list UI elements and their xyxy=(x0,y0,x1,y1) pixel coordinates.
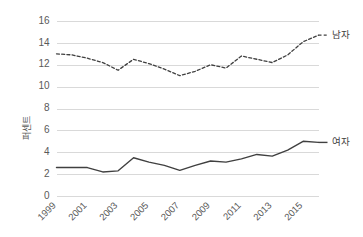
y-tick-label: 8 xyxy=(44,102,50,113)
y-axis-tick-labels: 0246810121416 xyxy=(38,15,50,201)
y-tick-label: 10 xyxy=(38,80,50,91)
y-tick-label: 16 xyxy=(38,15,50,26)
x-tick-label: 2007 xyxy=(158,200,181,223)
y-tick-label: 0 xyxy=(44,190,50,201)
y-tick-label: 6 xyxy=(44,124,50,135)
x-tick-label: 1999 xyxy=(35,200,58,223)
y-tick-label: 4 xyxy=(44,146,50,157)
series-lines xyxy=(57,35,319,172)
chart-svg: 0246810121416 19992001200320052007200920… xyxy=(0,0,363,237)
y-axis-title: 퍼센트 xyxy=(22,116,32,140)
series-line-female xyxy=(57,141,319,172)
y-tick-label: 2 xyxy=(44,168,50,179)
x-tick-label: 2001 xyxy=(66,200,89,223)
legend-label-male: 남자 xyxy=(332,29,350,40)
y-tick-label: 12 xyxy=(38,58,50,69)
x-tick-label: 2013 xyxy=(251,200,274,223)
line-chart: 0246810121416 19992001200320052007200920… xyxy=(0,0,363,237)
legend: 남자여자 xyxy=(319,29,350,147)
x-tick-label: 2003 xyxy=(97,200,120,223)
x-tick-label: 2009 xyxy=(189,200,212,223)
series-line-male xyxy=(57,35,319,75)
x-tick-label: 2011 xyxy=(221,200,243,222)
x-tick-label: 2005 xyxy=(128,200,151,223)
legend-label-female: 여자 xyxy=(332,136,350,147)
y-tick-label: 14 xyxy=(38,37,50,48)
x-tick-label: 2015 xyxy=(282,200,305,223)
x-axis-tick-labels: 199920012003200520072009201120132015 xyxy=(35,200,304,223)
